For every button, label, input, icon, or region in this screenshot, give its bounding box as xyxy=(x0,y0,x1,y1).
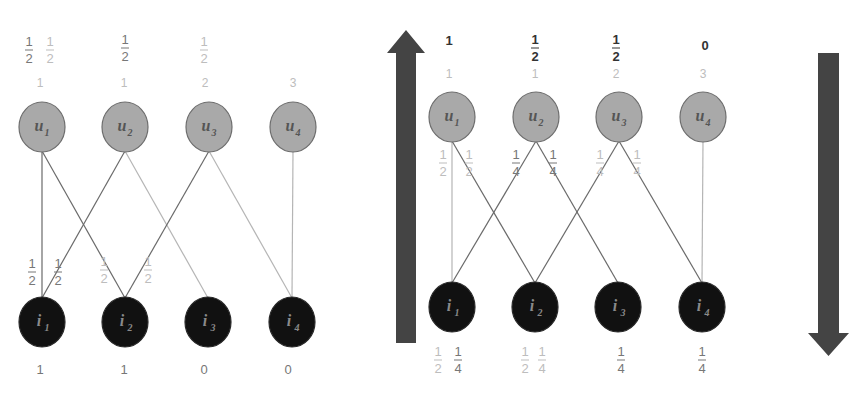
user-score-fraction: 12 xyxy=(46,34,54,66)
item-node-label: i xyxy=(120,312,125,329)
user-node-label: u xyxy=(35,117,44,134)
item-node-subscript: 1 xyxy=(455,307,460,318)
item-node-circle xyxy=(595,282,641,332)
fraction-denominator: 2 xyxy=(28,273,35,288)
fraction-numerator: 1 xyxy=(100,254,107,269)
fraction-numerator: 1 xyxy=(121,32,128,47)
item-score-fraction: 14 xyxy=(538,344,546,376)
edges xyxy=(42,151,293,298)
edge-weight-fraction: 14 xyxy=(512,147,520,179)
item-node-subscript: 4 xyxy=(294,322,300,333)
item-node-subscript: 1 xyxy=(45,322,50,333)
fraction-numerator: 1 xyxy=(439,147,446,162)
edge-weight-fraction: 14 xyxy=(633,147,641,179)
user-node-subscript: 4 xyxy=(295,127,301,138)
user-node-subscript: 2 xyxy=(538,117,544,128)
user-node-label: u xyxy=(286,117,295,134)
item-node-circle xyxy=(269,297,315,347)
user-node-u1: u1 xyxy=(429,92,475,142)
up-arrow-icon xyxy=(387,30,425,343)
edge-weight-fraction: 14 xyxy=(596,147,604,179)
fraction-numerator: 1 xyxy=(512,147,519,162)
user-degree-label: 1 xyxy=(532,67,539,81)
user-node-subscript: 3 xyxy=(621,117,627,128)
user-node-u3: u3 xyxy=(596,92,642,142)
fraction-numerator: 1 xyxy=(596,147,603,162)
fraction-numerator: 1 xyxy=(521,344,528,359)
fraction-denominator: 2 xyxy=(439,164,446,179)
item-node-subscript: 3 xyxy=(210,322,216,333)
user-score-fraction: 12 xyxy=(25,34,33,66)
edge-weight-fraction: 12 xyxy=(28,256,36,288)
fraction-numerator: 1 xyxy=(46,34,53,49)
user-node-u3: u3 xyxy=(186,102,232,152)
fraction-numerator: 1 xyxy=(698,344,705,359)
item-score-fraction: 14 xyxy=(698,344,706,376)
fraction-denominator: 2 xyxy=(612,49,619,64)
fraction-denominator: 4 xyxy=(617,361,624,376)
item-score-value: 0 xyxy=(200,362,207,377)
edge-u3-i4 xyxy=(619,141,702,283)
fraction-numerator: 1 xyxy=(25,34,32,49)
item-node-circle xyxy=(429,282,475,332)
item-node-subscript: 4 xyxy=(704,307,710,318)
item-node-i3: i3 xyxy=(595,282,641,332)
fraction-denominator: 2 xyxy=(25,51,32,66)
fraction-denominator: 4 xyxy=(596,164,603,179)
user-score-fraction: 12 xyxy=(612,32,620,64)
user-degree-label: 1 xyxy=(37,76,44,90)
right-graph: u1u2u3u4i1i2i3i4121210112312121414141412… xyxy=(429,32,726,376)
item-node-label: i xyxy=(287,312,292,329)
item-score-value: 1 xyxy=(36,362,43,377)
fraction-denominator: 4 xyxy=(538,361,545,376)
fraction-numerator: 1 xyxy=(454,344,461,359)
fraction-denominator: 2 xyxy=(531,49,538,64)
fraction-denominator: 4 xyxy=(698,361,705,376)
user-score-value: 0 xyxy=(701,38,708,53)
user-degree-label: 2 xyxy=(613,67,620,81)
item-node-circle xyxy=(679,282,725,332)
item-node-label: i xyxy=(37,312,42,329)
fraction-denominator: 2 xyxy=(54,273,61,288)
item-score-fraction: 12 xyxy=(521,344,529,376)
fraction-denominator: 2 xyxy=(144,271,151,286)
fraction-denominator: 2 xyxy=(100,271,107,286)
item-node-subscript: 2 xyxy=(127,322,133,333)
edge-weight-fraction: 14 xyxy=(549,147,557,179)
item-node-label: i xyxy=(530,297,535,314)
fraction-denominator: 2 xyxy=(121,49,128,64)
edge-u3-i4 xyxy=(209,151,292,298)
edge-weight-fraction: 12 xyxy=(439,147,447,179)
left-graph: u1u2u3u4i1i2i3i4121212121123121212121100 xyxy=(19,32,316,377)
user-node-label: u xyxy=(445,107,454,124)
item-node-circle xyxy=(19,297,65,347)
item-node-i4: i4 xyxy=(679,282,725,332)
fraction-denominator: 4 xyxy=(454,361,461,376)
edge-weight-fraction: 12 xyxy=(465,147,473,179)
edge-weight-fraction: 12 xyxy=(54,256,62,288)
user-node-subscript: 3 xyxy=(211,127,217,138)
item-score-value: 0 xyxy=(284,362,291,377)
fraction-numerator: 1 xyxy=(28,256,35,271)
fraction-denominator: 4 xyxy=(549,164,556,179)
user-degree-label: 1 xyxy=(121,76,128,90)
fraction-numerator: 1 xyxy=(538,344,545,359)
fraction-numerator: 1 xyxy=(612,32,619,47)
user-node-u2: u2 xyxy=(102,102,148,152)
user-node-subscript: 4 xyxy=(705,117,711,128)
fraction-numerator: 1 xyxy=(144,254,151,269)
item-node-circle xyxy=(185,297,231,347)
fraction-denominator: 2 xyxy=(200,51,207,66)
user-node-label: u xyxy=(696,107,705,124)
user-node-u1: u1 xyxy=(19,102,65,152)
fraction-numerator: 1 xyxy=(200,34,207,49)
item-node-subscript: 2 xyxy=(537,307,543,318)
item-node-i4: i4 xyxy=(269,297,315,347)
edge-weight-fraction: 12 xyxy=(100,254,108,286)
edge-u4-i4 xyxy=(292,151,293,298)
user-node-label: u xyxy=(118,117,127,134)
fraction-numerator: 1 xyxy=(531,32,538,47)
edge-u3-i2 xyxy=(535,141,619,283)
user-degree-label: 3 xyxy=(290,76,297,90)
item-score-fraction: 14 xyxy=(617,344,625,376)
